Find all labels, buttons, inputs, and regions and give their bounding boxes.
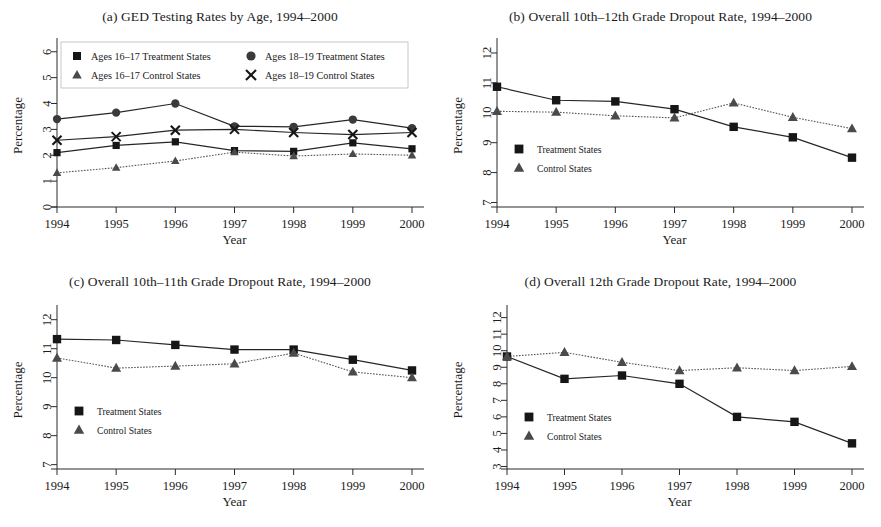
- data-point-triangle: [524, 431, 534, 440]
- legend-item-2: [524, 431, 534, 440]
- x-tick-label: 1998: [281, 479, 306, 493]
- y-tick-label: 0: [40, 204, 54, 210]
- legend-label: Ages 18–19 Control States: [265, 70, 375, 81]
- data-point-square: [53, 149, 60, 156]
- data-point-square: [733, 413, 741, 421]
- x-axis-label: Year: [663, 232, 688, 247]
- data-point-square: [349, 139, 356, 146]
- data-point-triangle: [514, 163, 524, 172]
- data-point-circle: [171, 99, 179, 107]
- x-tick-label: 1994: [45, 217, 71, 231]
- series-markers-3: [53, 99, 416, 132]
- x-tick-label: 1999: [340, 479, 365, 493]
- legend-item-1: [73, 52, 81, 60]
- legend-item-1: [515, 145, 524, 154]
- x-tick-label: 1994: [495, 479, 521, 493]
- data-point-square: [349, 356, 357, 364]
- legend-item-1: [75, 407, 84, 416]
- x-tick-label: 2000: [840, 479, 865, 493]
- data-point-triangle: [230, 359, 240, 368]
- data-point-square: [230, 345, 238, 353]
- y-tick-label: 11: [480, 77, 494, 89]
- data-point-square: [525, 413, 534, 422]
- x-tick-label: 1996: [163, 479, 188, 493]
- panel-b: (b) Overall 10th–12th Grade Dropout Rate…: [440, 0, 881, 265]
- y-tick-label: 9: [40, 404, 54, 410]
- data-point-square: [618, 371, 626, 379]
- data-point-square: [112, 336, 120, 344]
- x-tick-label: 1999: [782, 479, 807, 493]
- legend-label: Treatment States: [547, 412, 612, 423]
- y-tick-label: 4: [490, 446, 504, 453]
- legend-item-4: [246, 70, 256, 80]
- y-tick-label: 5: [40, 75, 54, 81]
- data-point-triangle: [72, 70, 82, 79]
- data-point-triangle: [790, 365, 800, 374]
- x-tick-label: 1996: [163, 217, 188, 231]
- panel-a: (a) GED Testing Rates by Age, 1994–2000 …: [0, 0, 440, 265]
- data-point-triangle: [112, 163, 121, 171]
- x-tick-label: 1999: [340, 217, 365, 231]
- y-tick-label: 11: [40, 343, 54, 355]
- data-point-square: [171, 341, 179, 349]
- data-point-square: [611, 97, 619, 105]
- y-tick-label: 11: [490, 328, 504, 340]
- x-tick-label: 1996: [603, 217, 628, 231]
- x-tick-label: 1997: [222, 479, 247, 493]
- y-tick-label: 8: [40, 433, 54, 439]
- x-tick-label: 1999: [780, 217, 805, 231]
- panel-c-plot: 789101112Percentage199419951996199719981…: [0, 265, 440, 527]
- x-tick-label: 1995: [104, 217, 129, 231]
- data-point-triangle: [171, 156, 180, 164]
- legend-label: Treatment States: [537, 144, 602, 155]
- y-tick-label: 10: [480, 107, 494, 120]
- data-point-triangle: [111, 363, 121, 372]
- legend-item-2: [74, 425, 84, 434]
- x-tick-label: 1994: [45, 479, 71, 493]
- y-tick-label: 6: [40, 49, 54, 55]
- y-tick-label: 9: [480, 140, 494, 146]
- data-point-triangle: [847, 123, 857, 132]
- data-point-triangle: [551, 107, 561, 116]
- panel-a-plot: 0123456Percentage19941995199619971998199…: [0, 0, 440, 265]
- y-tick-label: 8: [490, 381, 504, 387]
- data-point-circle: [349, 115, 357, 123]
- data-point-circle: [246, 51, 255, 60]
- x-axis-label: Year: [223, 494, 248, 509]
- data-point-square: [493, 83, 501, 91]
- y-tick-label: 6: [490, 414, 504, 420]
- x-tick-label: 1997: [222, 217, 247, 231]
- legend-item-2: [246, 51, 255, 60]
- y-tick-label: 7: [480, 199, 494, 205]
- x-tick-label: 1994: [485, 217, 511, 231]
- series-line-4: [57, 129, 412, 140]
- legend-label: Ages 16–17 Treatment States: [91, 51, 211, 62]
- data-point-square: [113, 142, 120, 149]
- x-tick-label: 1998: [721, 217, 746, 231]
- data-point-circle: [53, 115, 61, 123]
- legend-item-3: [72, 70, 82, 79]
- y-tick-label: 12: [40, 313, 54, 326]
- series-markers-1: [53, 335, 416, 375]
- panel-d: (d) Overall 12th Grade Dropout Rate, 199…: [440, 265, 881, 527]
- y-tick-label: 4: [40, 100, 54, 107]
- data-point-square: [675, 380, 683, 388]
- y-tick-label: 5: [490, 430, 504, 436]
- legend-label: Ages 16–17 Control States: [91, 70, 201, 81]
- data-point-square: [515, 145, 524, 154]
- panel-d-plot: 3456789101112Percentage19941995199619971…: [440, 265, 881, 527]
- data-point-triangle: [170, 361, 180, 370]
- y-tick-label: 10: [490, 344, 504, 357]
- data-point-triangle: [560, 347, 570, 356]
- legend-box: [61, 42, 408, 88]
- data-point-square: [790, 418, 798, 426]
- series-markers-2: [492, 98, 857, 133]
- x-tick-label: 1995: [552, 479, 577, 493]
- data-point-triangle: [74, 425, 84, 434]
- y-tick-label: 7: [40, 462, 54, 468]
- x-tick-label: 1998: [281, 217, 306, 231]
- data-point-circle: [112, 108, 120, 116]
- y-axis-label: Percentage: [450, 97, 465, 154]
- data-point-triangle: [732, 362, 742, 371]
- data-point-square: [560, 375, 568, 383]
